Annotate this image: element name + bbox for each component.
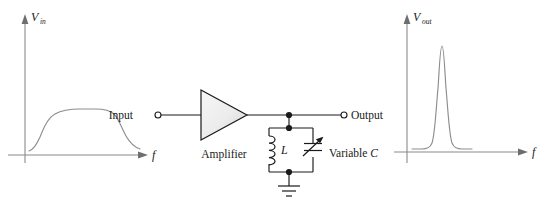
variable-capacitor-label-text: Variable: [329, 147, 370, 159]
input-plot-y-arrow: [22, 14, 29, 24]
output-plot-y-arrow: [404, 14, 411, 24]
ground-symbol: [278, 186, 300, 196]
variable-capacitor-label-symbol: C: [370, 147, 378, 159]
output-response-plot: V out f: [394, 10, 537, 163]
output-plot-x-label: f: [532, 145, 537, 159]
output-plot-y-label: V: [413, 10, 422, 24]
inductor-symbol[interactable]: [269, 136, 275, 165]
input-plot-x-label: f: [152, 148, 157, 162]
amplifier-symbol[interactable]: [201, 90, 247, 140]
inductor-label: L: [280, 143, 288, 157]
output-spectrum-curve: [412, 46, 472, 149]
input-response-plot: V in f: [8, 10, 157, 163]
output-plot-y-label-subscript: out: [422, 17, 433, 26]
tuned-amplifier-figure: V in f Input Amplifier Output: [0, 0, 548, 206]
circuit-diagram: Input Amplifier Output: [109, 90, 384, 196]
output-terminal-label: Output: [351, 109, 384, 122]
amplifier-label: Amplifier: [201, 148, 247, 161]
input-terminal-label: Input: [109, 109, 134, 122]
input-plot-y-label-subscript: in: [40, 17, 46, 26]
input-terminal-node[interactable]: [155, 112, 161, 118]
figure-canvas: V in f Input Amplifier Output: [0, 0, 548, 206]
input-plot-x-arrow: [138, 152, 148, 159]
output-plot-x-arrow: [518, 149, 528, 156]
output-terminal-node[interactable]: [341, 112, 347, 118]
input-plot-y-label: V: [31, 10, 40, 24]
variable-capacitor-label: Variable C: [329, 147, 378, 159]
